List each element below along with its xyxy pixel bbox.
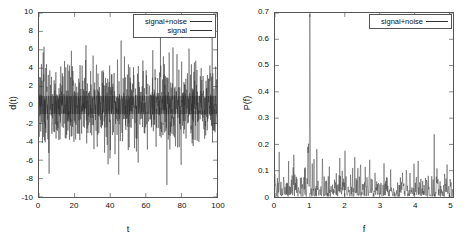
legend-entry-line [190,30,212,31]
y-axis-title-time-series: d(t) [8,96,18,110]
y-tick-label: 0.6 [236,35,269,43]
y-tick-label: 0.3 [236,114,269,122]
x-axis-title-power-spectrum: f [363,224,366,234]
y-tick-label: -4 [0,138,33,146]
x-tick-label: 80 [178,202,187,210]
y-tick-label: 0.4 [236,88,269,96]
trace-signal-plus-noise-spectrum [275,14,453,196]
x-tick-label: 3 [378,202,382,210]
legend-entry: signal+noise [373,17,448,26]
power-spectrum-plot-area [275,13,453,197]
legend-entry-label: signal+noise [145,17,187,26]
legend-entry: signal [137,26,212,35]
x-tick-label: 0 [272,202,276,210]
plot-frame-power-spectrum [274,12,454,198]
legend-entry: signal+noise [137,17,212,26]
x-tick-label: 60 [142,202,151,210]
y-tick-label: 0.2 [236,141,269,149]
y-tick-label: 0 [236,194,269,202]
panel-power-spectrum: 0.70.60.50.40.30.20.10 012345 f P(f) sig… [236,0,473,245]
panel-time-series: 1086420-2-4-6-8-10 020406080100 t d(t) s… [0,0,236,245]
x-tick-label: 0 [36,202,40,210]
y-tick-label: -2 [0,120,33,128]
legend-time-series: signal+noisesignal [133,14,216,38]
y-tick-label: 8 [0,27,33,35]
y-axis-title-power-spectrum: P(f) [242,96,252,111]
y-tick-label: -6 [0,157,33,165]
figure: 1086420-2-4-6-8-10 020406080100 t d(t) s… [0,0,473,245]
y-tick-label: 2 [0,82,33,90]
plot-frame-time-series [38,12,218,198]
legend-entry-label: signal [167,26,187,35]
y-tick-label: 10 [0,8,33,16]
x-tick-label: 1 [307,202,311,210]
y-tick-label: -10 [0,194,33,202]
x-tick-label: 5 [448,202,452,210]
x-tick-label: 20 [70,202,79,210]
x-tick-label: 4 [413,202,417,210]
legend-power-spectrum: signal+noise [369,14,452,29]
legend-entry-line [190,21,212,22]
y-tick-label: 0.5 [236,61,269,69]
legend-entry-label: signal+noise [381,17,423,26]
y-tick-label: 0.1 [236,167,269,175]
x-tick-label: 40 [106,202,115,210]
y-tick-label: 4 [0,64,33,72]
legend-entry-line [426,21,448,22]
time-series-plot-area [39,13,217,197]
x-axis-title-time-series: t [127,224,130,234]
x-tick-label: 100 [211,202,224,210]
x-tick-label: 2 [342,202,346,210]
y-tick-label: 0.7 [236,8,269,16]
y-tick-label: 6 [0,45,33,53]
y-tick-label: -8 [0,175,33,183]
